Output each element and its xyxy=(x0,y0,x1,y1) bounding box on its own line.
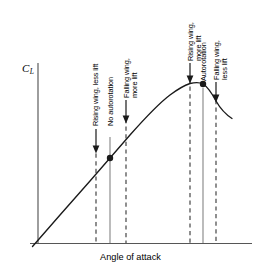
annotation-line-2: more lift xyxy=(131,58,139,98)
annotation-line-1: No autorotation xyxy=(107,77,115,126)
axes-group xyxy=(30,63,252,244)
marker-dot-no-autorotation xyxy=(107,155,113,161)
annotation-line-2: less lift xyxy=(221,40,229,80)
lift-curve xyxy=(33,83,233,247)
annotation-no-autorotation: No autorotation xyxy=(107,77,115,126)
marker-dot-autorotation xyxy=(200,81,206,87)
annotation-falling-wing-less-lift: Falling wing, less lift xyxy=(213,40,230,80)
annotation-rising-wing-less-lift: Rising wing, less lift xyxy=(92,64,100,126)
y-axis-label: CL xyxy=(22,62,34,74)
marker-arrow-rising-wing-less-lift xyxy=(93,129,100,154)
marker-arrow-falling-wing-less-lift xyxy=(213,82,220,103)
marker-arrow-rising-wing-more-lift xyxy=(187,63,194,84)
y-axis-label-subscript: L xyxy=(30,67,34,76)
annotation-falling-wing-more-lift: Falling wing, more lift xyxy=(123,58,140,98)
y-axis-label-base: C xyxy=(22,62,29,74)
annotation-line-1: Rising wing, less lift xyxy=(92,64,100,126)
annotation-line-1: Autorotation xyxy=(200,42,208,81)
lift-curve-figure: CL Angle of attack Rising wing, less lif… xyxy=(0,0,261,271)
x-axis-label: Angle of attack xyxy=(0,252,261,262)
annotation-autorotation: Autorotation xyxy=(200,42,208,81)
marker-arrow-falling-wing-more-lift xyxy=(123,100,130,124)
